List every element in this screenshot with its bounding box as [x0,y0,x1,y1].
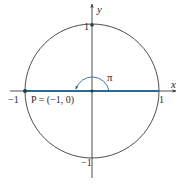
tick-label-x-pos: 1 [159,94,164,105]
origin-dot [91,90,94,93]
unit-circle-diagram: y x 1 −1 1 −1 π P = (−1, 0) [0,0,182,185]
angle-label-pi: π [107,71,113,83]
point-top-dot [90,23,94,27]
point-p-dot [23,89,27,93]
x-axis-label: x [170,78,176,90]
point-p-label: P = (−1, 0) [31,94,74,106]
y-axis-label: y [96,3,102,15]
tick-label-x-neg: −1 [8,94,19,105]
angle-arc-pi [76,77,109,91]
tick-label-y-pos: 1 [84,21,89,32]
tick-label-y-neg: −1 [81,157,92,168]
